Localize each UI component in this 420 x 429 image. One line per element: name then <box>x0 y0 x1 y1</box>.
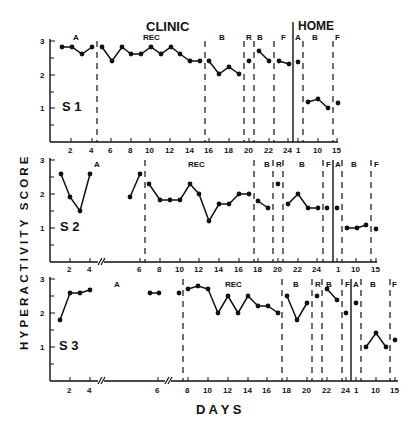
svg-text:REC: REC <box>143 33 160 42</box>
svg-text:A: A <box>94 160 100 169</box>
svg-text:6: 6 <box>155 386 160 395</box>
svg-text:3: 3 <box>40 156 45 165</box>
svg-text:10: 10 <box>145 146 154 155</box>
svg-text:8: 8 <box>185 386 190 395</box>
svg-text:6: 6 <box>137 265 142 274</box>
svg-text:18: 18 <box>282 386 291 395</box>
svg-text:20: 20 <box>244 146 253 155</box>
svg-text:A: A <box>353 280 359 289</box>
svg-text:3: 3 <box>40 37 45 46</box>
svg-text:12: 12 <box>194 265 203 274</box>
svg-text:10: 10 <box>351 265 360 274</box>
svg-text:R: R <box>276 160 282 169</box>
svg-text:F: F <box>326 160 331 169</box>
svg-text:1: 1 <box>354 386 359 395</box>
s1-labels: 3 2 1 S 1 A REC B R B F A B F <box>40 33 340 114</box>
svg-text:15: 15 <box>332 146 341 155</box>
svg-text:10: 10 <box>175 265 184 274</box>
svg-text:F: F <box>335 33 340 42</box>
s2-points <box>59 172 379 232</box>
svg-text:20: 20 <box>273 265 282 274</box>
svg-text:F: F <box>392 280 397 289</box>
svg-text:REC: REC <box>188 160 205 169</box>
svg-text:8: 8 <box>157 265 162 274</box>
panel-s3 <box>50 277 398 384</box>
svg-text:16: 16 <box>234 265 243 274</box>
svg-text:4: 4 <box>87 265 92 274</box>
svg-text:10: 10 <box>313 146 322 155</box>
svg-text:B: B <box>312 33 318 42</box>
svg-text:12: 12 <box>223 386 232 395</box>
svg-text:22: 22 <box>293 265 302 274</box>
svg-text:22: 22 <box>322 386 331 395</box>
svg-text:14: 14 <box>185 146 194 155</box>
svg-text:B: B <box>219 33 225 42</box>
svg-text:16: 16 <box>204 146 213 155</box>
panel-s2 <box>50 158 377 265</box>
svg-text:A: A <box>295 33 301 42</box>
y-axis-title: HYPERACTIVITY SCORE <box>18 153 30 350</box>
subject-s3: S 3 <box>59 338 79 353</box>
svg-text:24: 24 <box>341 386 350 395</box>
svg-text:2: 2 <box>40 309 45 318</box>
subject-s2: S 2 <box>60 219 80 234</box>
svg-text:10: 10 <box>203 386 212 395</box>
s3-xticks: 2 4 6 8 10 12 14 16 18 20 22 24 1 10 15 <box>67 386 399 395</box>
svg-text:F: F <box>281 33 286 42</box>
svg-text:15: 15 <box>371 265 380 274</box>
svg-text:A: A <box>73 33 79 42</box>
svg-text:20: 20 <box>302 386 311 395</box>
svg-text:F: F <box>374 160 379 169</box>
s3-points <box>58 284 398 350</box>
svg-text:B: B <box>299 160 305 169</box>
svg-text:REC: REC <box>225 280 242 289</box>
svg-text:12: 12 <box>165 146 174 155</box>
svg-text:A: A <box>114 280 120 289</box>
svg-text:B: B <box>326 280 332 289</box>
s2-xticks: 2 4 6 8 10 12 14 16 18 20 22 24 1 10 15 <box>67 265 380 274</box>
clinic-label: CLINIC <box>146 19 190 34</box>
svg-text:16: 16 <box>262 386 271 395</box>
svg-text:10: 10 <box>371 386 380 395</box>
svg-text:6: 6 <box>108 146 113 155</box>
svg-text:14: 14 <box>214 265 223 274</box>
svg-text:1: 1 <box>296 146 301 155</box>
svg-text:14: 14 <box>243 386 252 395</box>
x-axis-title: D A Y S <box>196 402 242 417</box>
svg-text:1: 1 <box>40 224 45 233</box>
svg-text:8: 8 <box>128 146 133 155</box>
svg-text:2: 2 <box>40 190 45 199</box>
svg-text:R: R <box>246 33 252 42</box>
svg-text:B: B <box>293 280 299 289</box>
svg-text:2: 2 <box>67 265 72 274</box>
s1-points <box>60 45 341 111</box>
svg-text:15: 15 <box>390 386 399 395</box>
home-label: HOME <box>298 19 334 33</box>
svg-text:1: 1 <box>40 343 45 352</box>
svg-text:B: B <box>257 33 263 42</box>
svg-text:4: 4 <box>87 386 92 395</box>
svg-text:24: 24 <box>283 146 292 155</box>
svg-text:2: 2 <box>68 146 73 155</box>
svg-text:1: 1 <box>40 104 45 113</box>
svg-text:B: B <box>370 280 376 289</box>
svg-text:4: 4 <box>89 146 94 155</box>
svg-text:22: 22 <box>264 146 273 155</box>
hyperactivity-chart: HYPERACTIVITY SCORE CLINIC HOME <box>0 0 420 429</box>
svg-text:F: F <box>345 280 350 289</box>
subject-s1: S 1 <box>62 99 82 114</box>
svg-text:2: 2 <box>40 71 45 80</box>
svg-text:A: A <box>335 160 341 169</box>
svg-text:B: B <box>264 160 270 169</box>
svg-text:3: 3 <box>40 275 45 284</box>
svg-text:18: 18 <box>253 265 262 274</box>
svg-text:B: B <box>351 160 357 169</box>
svg-text:R: R <box>315 280 321 289</box>
svg-text:24: 24 <box>312 265 321 274</box>
svg-text:18: 18 <box>224 146 233 155</box>
svg-text:2: 2 <box>67 386 72 395</box>
svg-text:1: 1 <box>336 265 341 274</box>
s1-xticks: 2 4 6 8 10 12 14 16 18 20 22 24 1 10 15 <box>68 146 341 155</box>
